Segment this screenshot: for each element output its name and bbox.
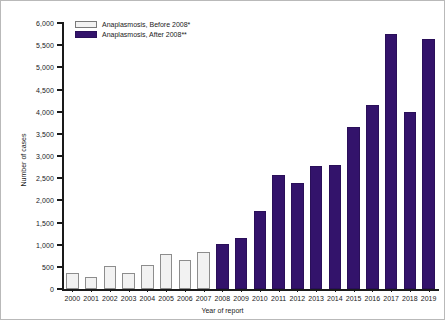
bar-2007 — [197, 252, 209, 289]
legend-label: Anaplasmosis, After 2008** — [102, 31, 187, 38]
x-axis-tick-label: 2002 — [102, 295, 118, 302]
x-axis-line — [62, 289, 439, 291]
bar-2002 — [104, 266, 116, 289]
plot-area: 05001,0001,5002,0002,5003,0003,5004,0004… — [63, 23, 438, 289]
x-axis-tick — [279, 289, 280, 292]
bar-2005 — [160, 254, 172, 289]
chart-legend: Anaplasmosis, Before 2008*Anaplasmosis, … — [75, 20, 190, 40]
x-axis-tick — [372, 289, 373, 292]
x-axis-tick-label: 2009 — [233, 295, 249, 302]
x-axis-tick — [91, 289, 92, 292]
bar-2017 — [385, 34, 397, 289]
x-axis-tick — [72, 289, 73, 292]
bar-2008 — [216, 244, 228, 289]
bar-2018 — [404, 112, 416, 289]
y-axis-tick-label: 5,500 — [36, 42, 54, 49]
bar-2016 — [366, 105, 378, 289]
x-axis-tick — [204, 289, 205, 292]
legend-swatch — [75, 21, 97, 28]
bar-2000 — [66, 273, 78, 289]
bar-2015 — [347, 127, 359, 289]
x-axis-tick — [260, 289, 261, 292]
x-axis-tick-label: 2000 — [65, 295, 81, 302]
x-axis-tick — [110, 289, 111, 292]
y-axis-tick-label: 1,000 — [36, 241, 54, 248]
x-axis-tick-label: 2003 — [121, 295, 137, 302]
bar-2012 — [291, 183, 303, 289]
x-axis-tick-label: 2014 — [327, 295, 343, 302]
x-axis-tick-label: 2010 — [252, 295, 268, 302]
x-axis-tick — [185, 289, 186, 292]
x-axis-tick-label: 2018 — [402, 295, 418, 302]
bar-2006 — [179, 260, 191, 289]
bar-2003 — [122, 273, 134, 289]
x-axis-tick — [297, 289, 298, 292]
bar-2001 — [85, 277, 97, 289]
x-axis-tick-label: 2005 — [158, 295, 174, 302]
bar-2009 — [235, 238, 247, 289]
x-axis-tick — [354, 289, 355, 292]
x-axis-tick-label: 2015 — [346, 295, 362, 302]
bar-2019 — [422, 39, 434, 289]
x-axis-tick-label: 2013 — [308, 295, 324, 302]
y-axis-tick-label: 2,000 — [36, 197, 54, 204]
y-axis-title: Number of cases — [20, 134, 27, 187]
x-axis-tick — [222, 289, 223, 292]
legend-item: Anaplasmosis, After 2008** — [75, 30, 190, 39]
y-axis-tick-label: 6,000 — [36, 20, 54, 27]
y-axis-tick-label: 500 — [42, 263, 54, 270]
x-axis-tick-label: 2016 — [365, 295, 381, 302]
bar-2011 — [272, 175, 284, 289]
x-axis-tick-label: 2004 — [140, 295, 156, 302]
x-axis-tick-label: 2008 — [215, 295, 231, 302]
y-axis-tick-label: 3,500 — [36, 130, 54, 137]
x-axis-tick-label: 2019 — [421, 295, 437, 302]
x-axis-tick — [316, 289, 317, 292]
bar-2010 — [254, 211, 266, 289]
x-axis-tick-label: 2011 — [271, 295, 286, 302]
y-axis-tick-label: 3,000 — [36, 153, 54, 160]
y-axis-tick-label: 5,000 — [36, 64, 54, 71]
x-axis-tick-label: 2017 — [383, 295, 399, 302]
bars-layer — [63, 23, 438, 289]
x-axis-tick — [410, 289, 411, 292]
y-axis-tick-label: 1,500 — [36, 219, 54, 226]
x-axis-tick — [335, 289, 336, 292]
x-axis-tick — [166, 289, 167, 292]
y-axis-tick-label: 2,500 — [36, 175, 54, 182]
x-axis-tick-label: 2006 — [177, 295, 193, 302]
x-axis-title: Year of report — [1, 307, 444, 314]
bar-2004 — [141, 265, 153, 289]
x-axis-tick-label: 2012 — [290, 295, 306, 302]
x-axis-tick-label: 2007 — [196, 295, 212, 302]
x-axis-tick — [391, 289, 392, 292]
x-axis-tick — [429, 289, 430, 292]
y-axis-tick-label: 0 — [50, 286, 54, 293]
legend-swatch — [75, 31, 97, 38]
y-axis-tick-label: 4,500 — [36, 86, 54, 93]
x-axis-tick — [129, 289, 130, 292]
chart-figure: Number of cases 05001,0001,5002,0002,500… — [0, 0, 445, 320]
x-axis-tick — [241, 289, 242, 292]
legend-label: Anaplasmosis, Before 2008* — [102, 21, 190, 28]
x-axis-tick-label: 2001 — [83, 295, 99, 302]
x-axis-tick — [147, 289, 148, 292]
bar-2014 — [329, 165, 341, 289]
bar-2013 — [310, 166, 322, 289]
y-axis-tick-label: 4,000 — [36, 108, 54, 115]
legend-item: Anaplasmosis, Before 2008* — [75, 20, 190, 29]
